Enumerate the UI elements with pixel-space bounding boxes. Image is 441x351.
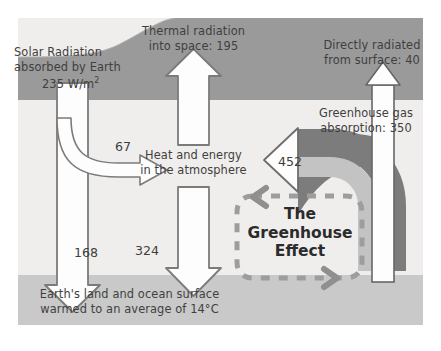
solar-radiation-label: Solar Radiation absorbed by Earth 235 W/… (14, 45, 144, 91)
thermal-radiation-line1: Thermal radiation (142, 24, 245, 38)
direct-radiation-line2: from surface: 40 (324, 53, 420, 67)
flow-value-67: 67 (115, 140, 131, 153)
greenhouse-effect-diagram: Solar Radiation absorbed by Earth 235 W/… (0, 0, 441, 351)
greenhouse-gas-absorption-label: Greenhouse gas absorption: 350 (303, 106, 429, 135)
thermal-radiation-label: Thermal radiation into space: 195 (132, 24, 255, 53)
earth-surface-line2: warmed to an average of 14°C (40, 302, 218, 316)
solar-radiation-line1: Solar Radiation (14, 45, 102, 59)
ghe-title-line2: Greenhouse (248, 224, 353, 242)
flow-value-324: 324 (135, 244, 159, 257)
solar-radiation-value: 235 (42, 77, 64, 91)
earth-surface-label: Earth's land and ocean surface warmed to… (20, 287, 239, 316)
ghe-title-line1: The (284, 205, 316, 223)
flow-value-168: 168 (74, 246, 98, 259)
heat-energy-line2: in the atmosphere (140, 163, 246, 177)
greenhouse-effect-title: The Greenhouse Effect (244, 205, 356, 261)
solar-radiation-unit-exponent: 2 (94, 76, 99, 85)
ghg-absorption-line2: absorption: 350 (320, 121, 412, 135)
earth-surface-line1: Earth's land and ocean surface (40, 287, 220, 301)
ghg-absorption-line1: Greenhouse gas (319, 106, 413, 120)
flow-value-452: 452 (278, 155, 302, 168)
solar-radiation-line2: absorbed by Earth (14, 60, 121, 74)
heat-energy-line1: Heat and energy (145, 148, 242, 162)
direct-radiation-label: Directly radiated from surface: 40 (312, 38, 432, 67)
solar-radiation-unit: W/m (64, 77, 94, 91)
ghe-title-line3: Effect (275, 242, 325, 260)
direct-radiation-line1: Directly radiated (323, 38, 420, 52)
thermal-radiation-line2: into space: 195 (149, 39, 239, 53)
heat-and-energy-label: Heat and energy in the atmosphere (128, 148, 259, 177)
